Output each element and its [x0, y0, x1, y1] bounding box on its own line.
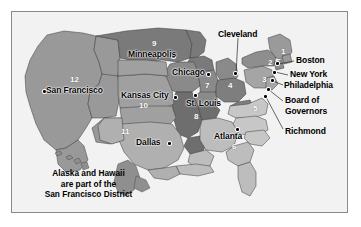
city-label-minneapolis: Minneapolis: [128, 50, 176, 59]
city-dot: [194, 94, 197, 97]
district-number-11: 11: [121, 127, 129, 136]
district-number-2: 2: [268, 58, 272, 67]
label-new-york: New York: [290, 70, 327, 79]
district-number-9: 9: [152, 39, 156, 48]
city-label-kansas-city: Kansas City: [121, 91, 169, 100]
district-number-8: 8: [194, 112, 198, 121]
district-number-12: 12: [70, 75, 79, 84]
leader-cleveland: [236, 38, 238, 74]
district-number-7: 7: [205, 81, 209, 90]
city-dot: [276, 62, 279, 65]
alaska-hawaii-note: Alaska and Hawaii are part of the San Fr…: [26, 168, 151, 200]
note-line-2: are part of the: [26, 179, 151, 190]
district-number-6: 6: [232, 142, 236, 151]
map-page: Minneapolis Chicago Kansas City St. Loui…: [0, 0, 361, 227]
city-dot: [234, 72, 237, 75]
city-dot: [168, 142, 171, 145]
city-dot: [207, 73, 210, 76]
district-number-5: 5: [253, 104, 257, 113]
district-number-4: 4: [228, 81, 232, 90]
label-boston: Boston: [296, 56, 325, 65]
city-dot: [267, 88, 270, 91]
leader-board-of-governors: [269, 90, 283, 101]
district-number-1: 1: [281, 47, 285, 56]
label-philadelphia: Philadelphia: [284, 81, 333, 90]
city-label-atlanta: Atlanta: [214, 132, 242, 141]
city-label-san-francisco: San Francisco: [46, 86, 103, 95]
note-line-1: Alaska and Hawaii: [26, 168, 151, 179]
city-dot: [174, 96, 177, 99]
leader-boston: [278, 61, 294, 64]
city-label-dallas: Dallas: [136, 138, 160, 147]
label-cleveland: Cleveland: [218, 30, 257, 39]
label-board-of-governors-1: Board of: [285, 96, 319, 105]
city-label-chicago: Chicago: [172, 68, 205, 77]
city-dot: [271, 79, 274, 82]
leader-philadelphia: [273, 81, 283, 85]
district-number-10: 10: [139, 101, 148, 110]
leader-richmond: [266, 97, 283, 129]
city-dot: [264, 95, 267, 98]
label-board-of-governors-2: Governors: [285, 107, 327, 116]
leader-new-york: [275, 72, 288, 75]
map-canvas: Minneapolis Chicago Kansas City St. Loui…: [0, 0, 361, 227]
city-label-st-louis: St. Louis: [186, 99, 221, 108]
note-line-3: San Francisco District: [26, 189, 151, 200]
label-richmond: Richmond: [285, 127, 326, 136]
city-dot: [273, 71, 276, 74]
district-number-3: 3: [262, 75, 266, 84]
